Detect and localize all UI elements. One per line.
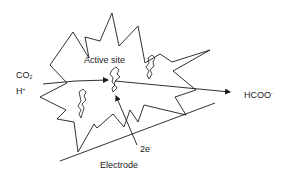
reactant-co2-label: CO2 — [16, 70, 32, 82]
electrons-text: 2e — [140, 144, 150, 154]
formate-text: HCOO — [244, 90, 271, 100]
product-flow-arrow — [115, 81, 230, 92]
product-formate-label: HCOO- — [244, 88, 273, 100]
reactant-flow-arrow — [43, 80, 108, 84]
co2-subscript: 2 — [30, 74, 33, 80]
lower-left-site-cluster-icon — [78, 89, 86, 118]
reactant-proton-label: H+ — [16, 84, 25, 96]
active-site-label: Active site — [84, 55, 125, 65]
co2-text: CO — [16, 70, 30, 80]
electrons-label: 2e- — [140, 142, 152, 154]
electrons-superscript: - — [150, 144, 152, 150]
electron-transfer-arrow — [116, 96, 137, 145]
upper-site-cluster-icon — [146, 55, 155, 79]
catalyst-body-outline — [40, 13, 210, 152]
formate-superscript: - — [271, 90, 273, 96]
electrode-label: Electrode — [100, 160, 138, 170]
active-site-cluster-icon — [110, 67, 120, 92]
electrode-text: Electrode — [100, 160, 138, 170]
proton-superscript: + — [23, 86, 26, 92]
active-site-text: Active site — [84, 55, 125, 65]
